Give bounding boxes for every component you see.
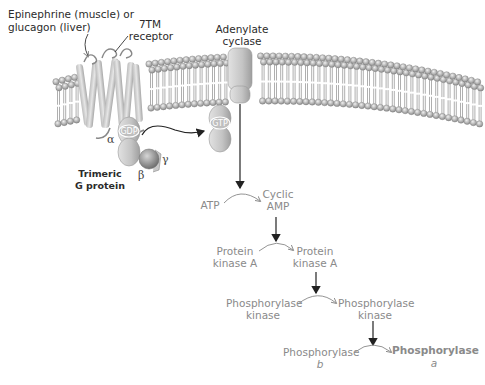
gamma-label: γ	[162, 153, 169, 166]
gprotein-label-line1: Trimeric	[70, 168, 130, 180]
pka-active-label-line1: Protein	[290, 245, 340, 257]
phosphorylase-a-label-line2: a	[392, 357, 476, 369]
atp-label: ATP	[198, 199, 222, 211]
gdp-label: GDP	[119, 126, 139, 138]
phosphorylase-b-label-line2: b	[283, 358, 357, 370]
activation-arrow	[142, 126, 204, 135]
beta-subunit	[139, 149, 159, 169]
conversion-arrow-3	[298, 296, 336, 304]
pka-inactive-label-line1: Protein	[210, 245, 260, 257]
phk-active-label-line2: kinase	[338, 309, 412, 321]
phk-inactive-label-line2: kinase	[226, 309, 300, 321]
ligand-label-line1: Epinephrine (muscle) or	[8, 8, 134, 20]
phk-active-label-line1: Phosphorylase	[338, 297, 412, 309]
gprotein-label-line2: G protein	[70, 180, 130, 192]
pka-active-label-line2: kinase A	[290, 257, 340, 269]
alpha-label: α	[107, 133, 114, 146]
cyclase-label-line1: Adenylate	[212, 23, 272, 35]
glycogen-signaling-diagram: Epinephrine (muscle) or glucagon (liver)…	[0, 0, 485, 385]
conversion-arrow-2	[259, 243, 293, 251]
diagram-canvas	[0, 0, 485, 385]
phk-inactive-label-line1: Phosphorylase	[226, 297, 300, 309]
conversion-arrow-4	[355, 345, 391, 352]
gtp-label: GTP	[210, 118, 230, 130]
phosphorylase-a-label-line1: Phosphorylase	[392, 344, 476, 356]
cyclic-amp-label-line2: AMP	[258, 200, 298, 212]
beta-label: β	[138, 169, 144, 182]
pka-inactive-label-line2: kinase A	[210, 257, 260, 269]
cyclic-amp-label-line1: Cyclic	[258, 188, 298, 200]
cyclase-label-line2: cyclase	[212, 35, 272, 47]
phosphorylase-b-label-line1: Phosphorylase	[283, 346, 357, 358]
conversion-arrow-1	[224, 194, 260, 203]
ligand-pointer	[85, 34, 88, 56]
receptor-label-line1: 7TM	[128, 18, 172, 30]
receptor-label-line2: receptor	[126, 30, 176, 42]
adenylate-cyclase	[228, 48, 252, 103]
ligand-label-line2: glucagon (liver)	[8, 21, 91, 33]
